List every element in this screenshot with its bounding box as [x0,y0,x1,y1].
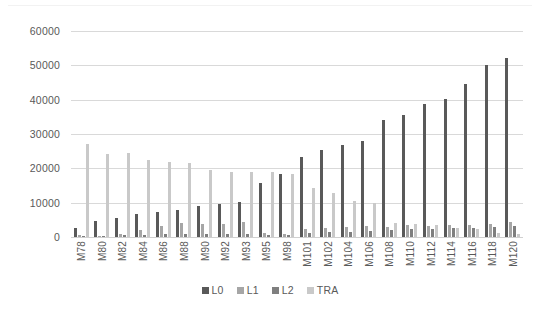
bar-l1-m112 [427,226,430,237]
bar-l0-m78 [74,228,77,237]
bars-layer [71,31,523,237]
bar-cluster [441,31,462,237]
bar-l0-m82 [115,218,118,237]
x-axis-tick-label: M95 [261,241,272,261]
bar-tra-m95 [271,172,274,237]
plot-area [71,31,523,237]
bar-cluster [318,31,339,237]
bar-l2-m86 [164,234,167,237]
bar-l0-m102 [320,150,323,237]
bar-l2-m116 [472,228,475,237]
bar-l0-m118 [485,65,488,237]
bar-tra-m110 [414,224,417,237]
x-axis-tick-label: M98 [282,241,293,261]
x-axis: M78M80M82M84M86M88M90M92M93M95M98M101M10… [71,239,523,281]
bar-l1-m120 [509,222,512,237]
bar-cluster [215,31,236,237]
bar-tra-m82 [127,153,130,237]
bar-l1-m95 [263,233,266,237]
bar-cluster [297,31,318,237]
bar-l1-m104 [345,227,348,237]
bar-l1-m116 [468,225,471,237]
bar-l1-m118 [489,224,492,237]
bar-tra-m120 [517,234,520,237]
bar-l0-m92 [218,204,221,237]
bar-l1-m98 [283,234,286,237]
bar-tra-m116 [476,229,479,237]
bar-cluster [502,31,523,237]
y-axis-tick-label: 50000 [30,59,60,71]
legend-item-l0[interactable]: L0 [202,284,224,296]
legend-item-l2[interactable]: L2 [272,284,294,296]
bar-l2-m82 [123,235,126,237]
bar-cluster [153,31,174,237]
legend-item-l1[interactable]: L1 [237,284,259,296]
bar-l2-m108 [390,230,393,237]
legend-label: L1 [247,284,259,296]
bar-l1-m90 [201,224,204,237]
legend-swatch-icon [272,287,279,294]
bar-l0-m104 [341,145,344,237]
bar-cluster [92,31,113,237]
bar-tra-m90 [209,170,212,237]
bar-l2-m98 [287,235,290,237]
bar-tra-m88 [188,163,191,237]
bar-l0-m95 [259,183,262,237]
bar-cluster [256,31,277,237]
y-axis-tick-label: 40000 [30,94,60,106]
bar-cluster [420,31,441,237]
x-axis-tick-label: M82 [117,241,128,261]
bar-tra-m112 [435,225,438,237]
y-axis-tick-label: 0 [54,231,60,243]
bar-l0-m120 [505,58,508,237]
bar-l2-m95 [267,235,270,237]
bar-tra-m80 [106,154,109,237]
legend-label: L0 [212,284,224,296]
legend-swatch-icon [307,287,314,294]
bar-l1-m106 [365,226,368,237]
bar-l0-m90 [197,206,200,237]
bar-l2-m90 [205,234,208,237]
bar-l1-m82 [119,234,122,237]
bar-l1-m114 [448,225,451,237]
x-axis-tick-label: M106 [364,241,375,267]
bar-l1-m110 [406,225,409,237]
bar-cluster [194,31,215,237]
bar-cluster [379,31,400,237]
x-axis-tick-label: M112 [426,241,437,266]
legend-item-tra[interactable]: TRA [307,284,339,296]
bar-l1-m92 [222,224,225,237]
bar-cluster [112,31,133,237]
y-axis-tick-label: 20000 [30,162,60,174]
bar-l2-m104 [349,232,352,237]
legend-swatch-icon [202,287,209,294]
x-axis-tick-label: M102 [323,241,334,267]
bar-tra-m118 [497,233,500,237]
bar-l2-m93 [246,234,249,237]
bar-l2-m120 [513,226,516,237]
bar-cluster [276,31,297,237]
bar-l1-m88 [180,223,183,237]
bar-l0-m116 [464,84,467,237]
bar-chart: 6000050000400003000020000100000 M78M80M8… [0,0,540,312]
bar-tra-m78 [86,144,89,237]
legend-label: TRA [317,284,339,296]
bar-l2-m92 [226,234,229,237]
bar-tra-m101 [312,188,315,237]
bar-tra-m84 [147,160,150,237]
chart-frame-top-border [8,5,532,6]
bar-l2-m114 [452,228,455,237]
x-axis-tick-label: M104 [343,241,354,267]
bar-l0-m80 [94,221,97,237]
bar-tra-m93 [250,172,253,237]
y-axis-tick-label: 30000 [30,128,60,140]
bar-l0-m101 [300,157,303,237]
x-axis-tick-label: M92 [220,241,231,261]
bar-tra-m114 [456,228,459,237]
bar-l0-m93 [238,202,241,237]
x-axis-tick-label: M110 [405,241,416,266]
x-axis-tick-label: M118 [487,241,498,266]
bar-l1-m78 [78,235,81,237]
x-axis-tick-label: M101 [302,241,313,267]
bar-tra-m104 [353,201,356,237]
